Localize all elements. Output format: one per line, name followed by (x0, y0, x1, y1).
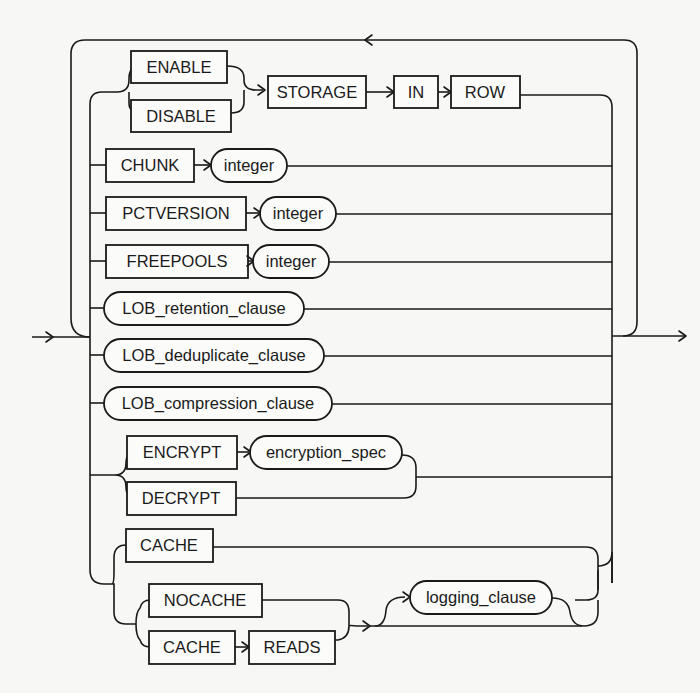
in-label: IN (408, 83, 425, 101)
lob-retention-label: LOB_retention_clause (122, 299, 285, 318)
integer-label: integer (224, 156, 275, 174)
branch-lob-deduplicate: LOB_deduplicate_clause (90, 339, 612, 372)
cache-label: CACHE (163, 638, 221, 656)
entry-line (32, 332, 90, 342)
branch-freepools: FREEPOOLS integer (90, 245, 612, 278)
encrypt-label: ENCRYPT (143, 443, 222, 461)
disable-label: DISABLE (146, 107, 216, 125)
logging-clause-label: logging_clause (426, 588, 536, 607)
enable-label: ENABLE (146, 58, 211, 76)
branch-cache: CACHE NOCACHE CACHE READS logging_clause (112, 529, 612, 664)
branch-lob-compression: LOB_compression_clause (90, 387, 612, 420)
branch-storage-in-row: ENABLE DISABLE STORAGE IN ROW (117, 51, 612, 132)
integer-label: integer (273, 204, 324, 222)
lob-parameters-syntax-diagram: ENABLE DISABLE STORAGE IN ROW CHUNK inte… (0, 0, 700, 693)
integer-label: integer (266, 252, 317, 270)
storage-label: STORAGE (277, 83, 357, 101)
chunk-label: CHUNK (121, 156, 180, 174)
exit-line (612, 331, 686, 341)
freepools-label: FREEPOOLS (127, 252, 228, 270)
nocache-label: NOCACHE (164, 591, 247, 609)
pctversion-label: PCTVERSION (122, 204, 229, 222)
branch-pctversion: PCTVERSION integer (90, 197, 612, 230)
decrypt-label: DECRYPT (142, 489, 221, 507)
branch-chunk: CHUNK integer (90, 149, 612, 182)
row-label: ROW (465, 83, 506, 101)
reads-label: READS (264, 638, 321, 656)
branch-lob-retention: LOB_retention_clause (90, 292, 612, 325)
branch-encrypt-decrypt: ENCRYPT encryption_spec DECRYPT (90, 436, 612, 515)
cache-label: CACHE (140, 536, 198, 554)
encryption-spec-label: encryption_spec (266, 443, 386, 462)
lob-compression-label: LOB_compression_clause (122, 394, 315, 413)
lob-deduplicate-label: LOB_deduplicate_clause (122, 346, 305, 365)
